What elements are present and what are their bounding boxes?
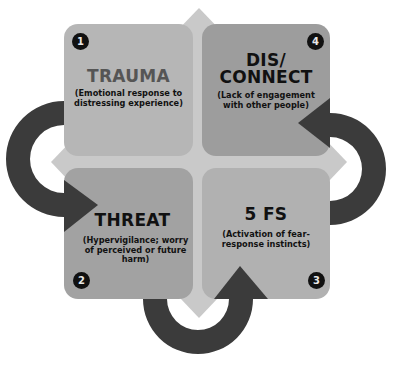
cycle-arrows (0, 0, 397, 367)
curved-arrow-right-icon (6, 101, 98, 232)
trauma-cycle-diagram: 1 TRAUMA (Emotional response to distress… (0, 0, 397, 367)
curved-arrow-up-icon (143, 266, 268, 354)
curved-arrow-left-icon (298, 98, 386, 225)
